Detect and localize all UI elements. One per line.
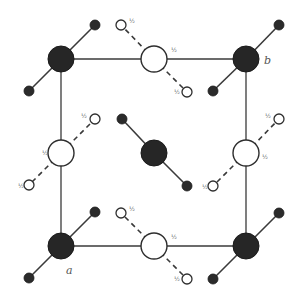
- open-atom-small: [182, 274, 192, 284]
- dark-atom-large-bottom-left: [48, 233, 74, 259]
- dark-atom-small: [274, 20, 284, 30]
- dark-atom-small: [90, 207, 100, 217]
- open-atom-small: [116, 20, 126, 30]
- dark-atom-small: [90, 20, 100, 30]
- dark-atom-large-center: [141, 140, 167, 166]
- atoms: [24, 20, 284, 284]
- corner-label-b: b: [264, 54, 271, 67]
- dark-atom-small: [182, 181, 192, 191]
- dark-atom-large-bottom-right: [233, 233, 259, 259]
- height-fraction-label: ½: [129, 17, 135, 24]
- dark-atom-small: [208, 274, 218, 284]
- dark-atom-small: [117, 114, 127, 124]
- dark-atom-large-top-left: [48, 46, 74, 72]
- dark-atom-small: [24, 273, 34, 283]
- dark-atom-small: [24, 86, 34, 96]
- height-fraction-label: ½: [171, 233, 177, 240]
- height-fraction-label: ½: [42, 149, 48, 156]
- height-fraction-label: ½: [18, 182, 24, 189]
- dark-atom-small: [208, 86, 218, 96]
- open-atom-small: [116, 208, 126, 218]
- open-atom-large-right-mid: [233, 140, 259, 166]
- height-fraction-label: ½: [129, 205, 135, 212]
- open-atom-small: [24, 180, 34, 190]
- height-fraction-label: ½: [174, 88, 180, 95]
- height-fraction-label: ½: [262, 153, 268, 160]
- crystal-structure-diagram: ½½½½½½½½½½½½ a b: [0, 0, 306, 302]
- dark-atom-small: [274, 208, 284, 218]
- height-fraction-label: ½: [81, 112, 87, 119]
- open-atom-large-left-mid: [48, 140, 74, 166]
- corner-label-a: a: [66, 264, 73, 277]
- open-atom-small: [208, 181, 218, 191]
- height-fraction-label: ½: [171, 46, 177, 53]
- height-fraction-label: ½: [202, 183, 208, 190]
- height-fraction-label: ½: [174, 275, 180, 282]
- open-atom-small: [90, 114, 100, 124]
- height-fraction-label: ½: [265, 112, 271, 119]
- dark-atom-large-top-right: [233, 46, 259, 72]
- open-atom-large-bottom-mid: [141, 233, 167, 259]
- open-atom-small: [274, 114, 284, 124]
- open-atom-small: [182, 87, 192, 97]
- open-atom-large-top-mid: [141, 46, 167, 72]
